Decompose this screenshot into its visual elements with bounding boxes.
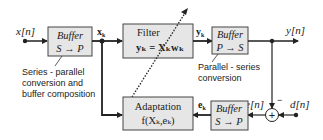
buffer-parallel-to-serial-block: Buffer P → S [212, 27, 248, 54]
buffer-serial-to-parallel-block: Buffer S → P [48, 27, 92, 56]
annotation-series-parallel-2: conversion and [22, 78, 83, 88]
buffer-in-op: S → P [56, 43, 84, 54]
buffer-err-op: S → P [215, 116, 243, 127]
annotation-parallel-series-1: Parallel - series [198, 62, 261, 72]
ek-label: ek [198, 99, 206, 111]
desired-signal-label: d[n] [290, 98, 310, 110]
buffer-out-title: Buffer [217, 29, 244, 40]
input-signal-label: x[n] [15, 25, 35, 37]
adaptation-title: Adaptation [135, 101, 182, 112]
adaptation-block: Adaptation f(Xₖ,eₖ) [123, 97, 193, 130]
output-signal-label: y[n] [285, 24, 305, 36]
filter-title: Filter [137, 27, 160, 38]
adaptation-equation: f(Xₖ,eₖ) [141, 115, 175, 127]
buffer-err-title: Buffer [216, 103, 243, 114]
annotation-series-parallel-3: buffer composition [22, 89, 95, 99]
minus-sign: − [277, 95, 282, 105]
filter-equation: yₖ = Xₖwₖ [136, 42, 184, 53]
annotation-leader-right [212, 54, 218, 62]
summing-junction: + [266, 109, 279, 122]
yk-label: yk [196, 26, 205, 38]
buffer-out-op: P → S [215, 42, 244, 53]
buffer-in-title: Buffer [57, 30, 84, 41]
annotation-leader-left [55, 56, 62, 66]
adaptive-filter-block-diagram: x[n] Buffer S → P Series - parallel conv… [0, 0, 323, 140]
xk-to-adaptation-arrow [102, 41, 122, 115]
filter-block: Filter yₖ = Xₖwₖ [123, 24, 193, 58]
buffer-error-serial-to-parallel-block: Buffer S → P [211, 101, 248, 130]
annotation-parallel-series-2: conversion [198, 73, 242, 83]
xk-label: xk [97, 26, 106, 38]
annotation-series-parallel-1: Series - parallel [22, 67, 85, 77]
summer-symbol: + [269, 109, 275, 121]
dotted-arrow-head [181, 8, 188, 15]
